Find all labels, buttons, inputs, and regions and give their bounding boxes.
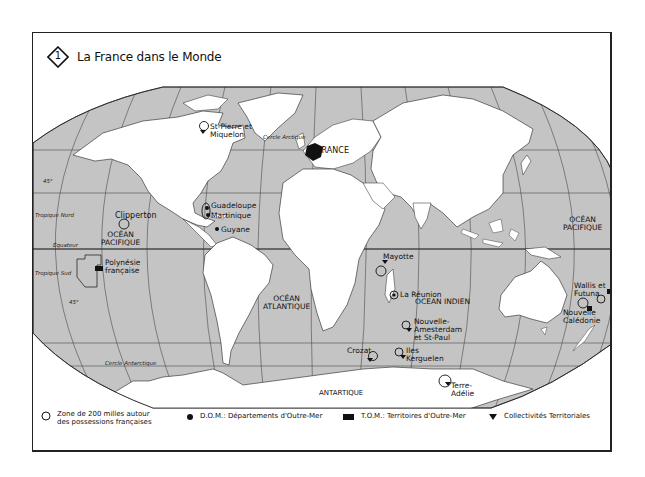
tropic-south-label: Tropique Sud xyxy=(35,269,71,277)
ocean-pacific-west: OCÉAN PACIFIQUE xyxy=(563,216,602,232)
tropic-north-label: Tropique Nord xyxy=(35,211,74,219)
place-guadeloupe: Guadeloupe xyxy=(211,202,256,210)
legend-zone-text: Zone de 200 milles autour des possession… xyxy=(57,411,152,426)
ocean-pacific-east: OCÉAN PACIFIQUE xyxy=(101,231,140,247)
place-mayotte: Mayotte xyxy=(383,253,414,261)
antarctica-label: ANTARTIQUE xyxy=(319,389,363,397)
place-terre-adelie: Terre- Adélie xyxy=(451,382,474,398)
arctic-circle-label: Cercle Arctique xyxy=(263,133,305,141)
lat-45s-label: 45° xyxy=(69,298,79,306)
place-guyane: Guyane xyxy=(221,226,250,234)
place-caledonie: Nouvelle Calédonie xyxy=(563,309,600,325)
legend-collectivites-text: Collectivités Territoriales xyxy=(504,413,590,421)
place-label-line: Futuna xyxy=(574,290,606,298)
place-crozet: Crozat xyxy=(347,347,371,355)
place-amsterdam: Nouvelle- Amesterdam et St-Paul xyxy=(414,318,462,342)
place-france: FRANCE xyxy=(317,147,349,155)
place-label-line: Kerguelen xyxy=(406,355,444,363)
legend-dom-text: D.O.M.: Départements d'Outre-Mer xyxy=(200,413,322,421)
place-polynesie: Polynésie française xyxy=(105,259,140,275)
legend-tom: T.O.M.: Territoires d'Outre-Mer xyxy=(343,413,466,421)
legend-tom-text: T.O.M.: Territoires d'Outre-Mer xyxy=(361,413,466,421)
ocean-indian: OCEAN INDIEN xyxy=(415,298,470,306)
place-st-pierre: St-Pierre et Miquelon xyxy=(210,123,252,139)
open-circle-icon xyxy=(41,411,51,421)
place-label-line: Adélie xyxy=(451,390,474,398)
filled-circle-icon xyxy=(186,413,194,421)
ocean-label-line: PACIFIQUE xyxy=(101,239,140,247)
legend-collectivites: Collectivités Territoriales xyxy=(489,413,590,421)
legend-zone: Zone de 200 milles autour des possession… xyxy=(41,411,152,426)
map-legend: Zone de 200 milles autour des possession… xyxy=(41,411,601,441)
lat-45n-label: 45° xyxy=(43,177,53,185)
place-label-line: Calédonie xyxy=(563,317,600,325)
down-triangle-icon xyxy=(489,413,498,421)
place-clipperton: Clipperton xyxy=(115,212,157,220)
map-frame: 1 La France dans le Monde xyxy=(32,32,612,452)
legend-dom: D.O.M.: Départements d'Outre-Mer xyxy=(186,413,322,421)
antarctic-circle-label: Cercle Antarctique xyxy=(105,359,156,367)
place-reunion: La Réunion xyxy=(400,291,442,299)
place-label-line: française xyxy=(105,267,140,275)
place-kerguelen: Iles Kerguelen xyxy=(406,347,444,363)
equator-label: Équateur xyxy=(53,241,78,249)
place-label-line: et St-Paul xyxy=(414,334,462,342)
place-label-line: Miquelon xyxy=(210,131,252,139)
ocean-label-line: PACIFIQUE xyxy=(563,224,602,232)
place-wallis: Wallis et Futuna xyxy=(574,282,606,298)
place-martinique: Martinique xyxy=(211,212,251,220)
ocean-label-line: ATLANTIQUE xyxy=(263,303,310,311)
ocean-atlantic: OCÉAN ATLANTIQUE xyxy=(263,295,310,311)
legend-zone-line: des possessions françaises xyxy=(57,419,152,427)
filled-rectangle-icon xyxy=(343,413,355,421)
